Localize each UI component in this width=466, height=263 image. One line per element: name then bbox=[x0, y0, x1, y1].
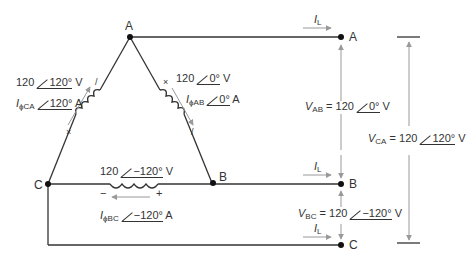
angle: 120° bbox=[38, 98, 73, 110]
equals-magnitude: = 120 bbox=[390, 132, 418, 144]
coil-bc-polarity-left: − bbox=[100, 188, 106, 199]
magnitude: 120 bbox=[100, 165, 118, 177]
coil-ca-polarity-bottom: × bbox=[66, 128, 71, 137]
unit: V bbox=[166, 165, 173, 177]
equals-magnitude: = 120 bbox=[320, 207, 348, 219]
coil-ab-polarity-bottom: / bbox=[191, 128, 194, 137]
subscript: AB bbox=[312, 105, 323, 114]
coil-ca-voltage: 120 120° V bbox=[16, 77, 83, 89]
line-label-c: C bbox=[349, 239, 358, 251]
angle: −120° bbox=[350, 208, 391, 220]
angle: 0° bbox=[197, 73, 220, 85]
node-label-c: C bbox=[34, 179, 43, 191]
coil-ab-current: IϕAB 0° A bbox=[186, 94, 240, 107]
magnitude: 120 bbox=[16, 76, 34, 88]
angle: 120° bbox=[420, 133, 455, 145]
unit: A bbox=[75, 97, 82, 109]
unit: A bbox=[232, 93, 239, 105]
coil-ab-voltage: 120 0° V bbox=[176, 73, 230, 85]
equals-magnitude: = 120 bbox=[326, 100, 354, 112]
angle: 0° bbox=[357, 101, 380, 113]
coil-ca-polarity-top: / bbox=[95, 78, 98, 87]
unit: A bbox=[165, 209, 172, 221]
magnitude: 120 bbox=[176, 72, 194, 84]
coil-ca-current: IϕCA 120° A bbox=[16, 98, 82, 111]
line-current-a: IL bbox=[314, 14, 322, 27]
node-label-a: A bbox=[125, 20, 133, 32]
line-voltage-ab: VAB = 120 0° V bbox=[305, 101, 390, 114]
coil-bc-polarity-right: + bbox=[156, 188, 162, 199]
angle: −120° bbox=[122, 210, 163, 222]
line-current-c: IL bbox=[314, 223, 322, 236]
subscript: BC bbox=[305, 212, 316, 221]
unit: V bbox=[383, 100, 390, 112]
node-label-b: B bbox=[219, 171, 227, 183]
unit: V bbox=[395, 207, 402, 219]
line-voltage-bc: VBC = 120 −120° V bbox=[298, 208, 402, 221]
coil-bc-voltage: 120 −120° V bbox=[100, 166, 173, 178]
angle: 0° bbox=[207, 94, 230, 106]
subscript: CA bbox=[375, 137, 386, 146]
subscript: ϕBC bbox=[103, 214, 119, 223]
subscript: L bbox=[317, 165, 321, 174]
angle: 120° bbox=[37, 77, 72, 89]
unit: V bbox=[75, 76, 82, 88]
coil-ab-polarity-top: × bbox=[163, 78, 168, 87]
line-current-b: IL bbox=[314, 161, 322, 174]
subscript: L bbox=[317, 18, 321, 27]
subscript: L bbox=[317, 227, 321, 236]
coil-bc-current: IϕBC −120° A bbox=[100, 210, 173, 223]
subscript: ϕAB bbox=[189, 98, 204, 107]
angle: −120° bbox=[121, 166, 162, 178]
line-label-a: A bbox=[349, 31, 357, 43]
line-label-b: B bbox=[349, 178, 357, 190]
line-voltage-ca: VCA = 120 120° V bbox=[368, 133, 466, 146]
unit: V bbox=[458, 132, 465, 144]
subscript: ϕCA bbox=[19, 102, 35, 111]
unit: V bbox=[223, 72, 230, 84]
